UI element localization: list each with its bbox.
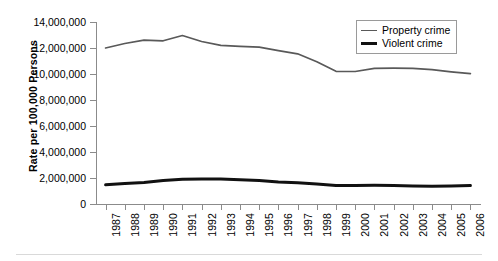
x-axis-tick xyxy=(202,205,203,210)
x-axis-tick xyxy=(182,205,183,210)
x-axis-tick xyxy=(221,205,222,210)
x-axis-tick xyxy=(278,205,279,210)
y-axis-tick-label: 0 xyxy=(80,198,86,210)
legend-label-violent-crime: Violent crime xyxy=(382,37,443,50)
y-axis-tick-label: 2,000,000 xyxy=(39,172,86,184)
y-axis-tick-label: 12,000,000 xyxy=(33,42,86,54)
x-axis-tick xyxy=(336,205,337,210)
y-axis-tick xyxy=(90,126,96,127)
x-axis-tick-label: 2005 xyxy=(455,213,467,237)
legend-item-property-crime: Property crime xyxy=(361,24,450,37)
x-axis-tick xyxy=(125,205,126,210)
y-axis-tick xyxy=(90,178,96,179)
y-axis-tick-label: 14,000,000 xyxy=(33,16,86,28)
x-axis-tick-label: 1987 xyxy=(110,213,122,237)
x-axis-tick xyxy=(106,205,107,210)
x-axis-tick xyxy=(259,205,260,210)
y-axis-tick xyxy=(90,152,96,153)
y-axis-tick-label: 6,000,000 xyxy=(39,120,86,132)
x-axis-tick-label: 1994 xyxy=(244,213,256,237)
x-axis-tick xyxy=(432,205,433,210)
x-axis-tick xyxy=(394,205,395,210)
x-axis-tick-label: 1993 xyxy=(225,213,237,237)
x-axis-tick xyxy=(240,205,241,210)
y-axis-tick xyxy=(90,22,96,23)
x-axis-tick xyxy=(355,205,356,210)
x-axis-tick xyxy=(317,205,318,210)
x-axis-tick-label: 1988 xyxy=(129,213,141,237)
legend-label-property-crime: Property crime xyxy=(382,24,450,37)
x-axis-tick-label: 1999 xyxy=(340,213,352,237)
x-axis-tick-label: 1992 xyxy=(206,213,218,237)
x-axis-tick xyxy=(451,205,452,210)
x-axis-tick-label: 2000 xyxy=(359,213,371,237)
x-axis-tick-label: 1996 xyxy=(282,213,294,237)
x-axis-tick-label: 2006 xyxy=(474,213,486,237)
x-axis-tick xyxy=(144,205,145,210)
x-axis-tick xyxy=(163,205,164,210)
y-axis-tick xyxy=(90,48,96,49)
x-axis-tick-label: 2002 xyxy=(398,213,410,237)
x-axis-tick xyxy=(374,205,375,210)
x-axis-tick xyxy=(298,205,299,210)
x-axis-tick-label: 1998 xyxy=(321,213,333,237)
legend-swatch-violent-crime xyxy=(361,42,377,45)
legend-item-violent-crime: Violent crime xyxy=(361,37,450,50)
y-axis-line xyxy=(96,22,97,205)
y-axis-tick xyxy=(90,74,96,75)
violent-crime-line xyxy=(106,179,471,186)
y-axis-tick xyxy=(90,204,96,205)
chart-legend: Property crime Violent crime xyxy=(356,20,457,54)
x-axis-tick-label: 1989 xyxy=(148,213,160,237)
legend-swatch-property-crime xyxy=(361,30,377,32)
x-axis-tick-label: 1991 xyxy=(186,213,198,237)
y-axis-tick-label: 10,000,000 xyxy=(33,68,86,80)
x-axis-line xyxy=(96,204,481,205)
x-axis-tick-label: 2003 xyxy=(417,213,429,237)
y-axis-tick-label: 4,000,000 xyxy=(39,146,86,158)
x-axis-tick xyxy=(413,205,414,210)
y-axis-tick xyxy=(90,100,96,101)
y-axis-tick-label: 8,000,000 xyxy=(39,94,86,106)
footer-divider xyxy=(16,254,482,255)
x-axis-tick-label: 1995 xyxy=(263,213,275,237)
x-axis-tick-label: 2004 xyxy=(436,213,448,237)
x-axis-tick-label: 1990 xyxy=(167,213,179,237)
x-axis-tick-label: 1997 xyxy=(302,213,314,237)
chart-container: Rate per 100,000 Persons 02,000,0004,000… xyxy=(0,0,498,261)
x-axis-tick xyxy=(470,205,471,210)
x-axis-tick-label: 2001 xyxy=(378,213,390,237)
